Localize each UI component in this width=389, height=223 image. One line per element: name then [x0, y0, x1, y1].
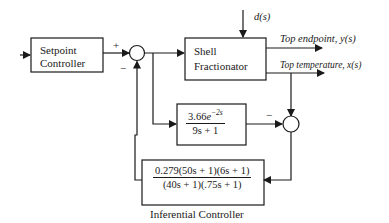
disturbance-label: d(s)	[254, 12, 270, 23]
shell-fractionator-label-2: Fractionator	[194, 61, 248, 72]
delay-model-numerator: 3.66e−2s	[186, 108, 225, 124]
setpoint-controller-label-1: Setpoint	[40, 45, 77, 56]
top-endpoint-label: Top endpoint, y(s)	[280, 34, 356, 45]
inferential-denominator: (40s + 1)(.75s + 1)	[163, 178, 242, 190]
sj1-plus-sign: +	[113, 40, 119, 51]
delay-model-transfer-function: 3.66e−2s 9s + 1	[186, 108, 225, 136]
summing-junction-1	[130, 46, 145, 61]
delay-model-denominator: 9s + 1	[193, 124, 219, 136]
branch-to-delay-model	[153, 53, 176, 124]
delay-exp: −2s	[211, 108, 223, 117]
feedback-to-sj1-arrow	[135, 62, 142, 181]
sj1-minus-sign: −	[120, 63, 126, 74]
inferential-numerator: 0.279(50s + 1)(6s + 1)	[153, 165, 251, 178]
inferential-controller-caption: Inferential Controller	[150, 209, 244, 220]
summing-junction-2	[283, 116, 299, 132]
delay-coef: 3.66	[188, 111, 206, 122]
inferential-controller-transfer-function: 0.279(50s + 1)(6s + 1) (40s + 1)(.75s + …	[153, 165, 251, 190]
setpoint-controller-label-2: Controller	[40, 58, 85, 69]
top-temperature-label: Top temperature, x(s)	[280, 61, 361, 71]
sj2-minus-sign: −	[266, 110, 272, 121]
shell-fractionator-label-1: Shell	[194, 46, 217, 57]
sj2-to-inferential-arrow	[264, 132, 291, 180]
